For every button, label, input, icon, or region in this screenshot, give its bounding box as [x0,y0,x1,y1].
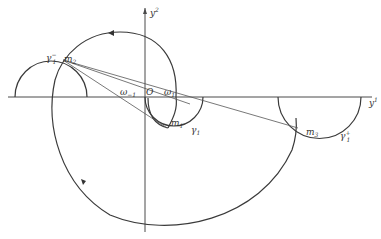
label-m2: m2 [64,54,77,65]
arrow-top-icon [108,30,114,36]
vertical-axis-arrow-icon [143,8,147,14]
label-m3: m3 [306,127,319,138]
phase-plane-diagram: y2 y1 O m2 m1 m3 γ−1 γ1 γ+1 ω−1 ω1 [0,0,381,239]
label-y2: y2 [149,6,159,18]
arrow-left-icon [81,179,86,185]
label-omega1: ω1 [164,87,175,98]
label-omega-minus1: ω−1 [120,87,136,98]
ray-m2-m3 [63,60,298,128]
label-gamma1-minus: γ−1 [46,51,56,65]
label-gamma1-plus: γ+1 [340,129,350,143]
trajectory-large [52,32,296,225]
label-y1: y1 [368,96,378,108]
label-gamma1: γ1 [191,125,200,136]
label-origin: O [146,87,154,97]
trajectory-inner-start [148,98,168,128]
label-m1: m1 [171,118,183,129]
curve-gamma1-minus [15,61,87,97]
